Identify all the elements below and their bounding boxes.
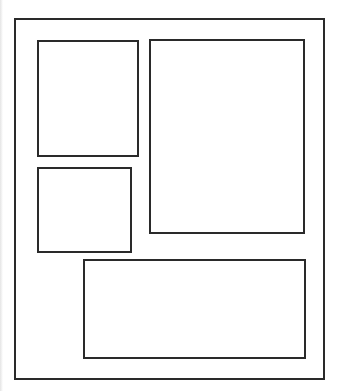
top-left-panel [37,40,139,157]
right-tall-panel [149,39,305,234]
middle-left-panel [37,167,132,253]
bottom-wide-panel [83,259,306,359]
scan-edge-shadow [0,0,3,391]
